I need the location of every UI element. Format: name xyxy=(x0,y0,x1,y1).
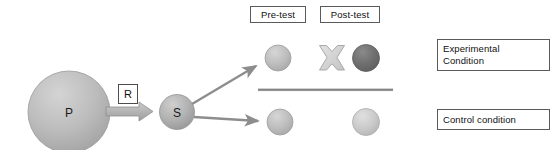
experimental-condition-line2: Condition xyxy=(443,55,484,66)
pretest-header-box: Pre-test xyxy=(250,6,306,23)
experimental-design-diagram: P S R Pre-test Post-test Experimental Co… xyxy=(0,0,555,150)
posttest-circle-control xyxy=(353,109,380,136)
population-label: P xyxy=(65,106,73,120)
pretest-circle-experimental xyxy=(265,45,291,71)
sample-to-experimental-arrow xyxy=(192,66,256,104)
experimental-condition-text: Experimental Condition xyxy=(443,43,500,67)
randomization-label-box: R xyxy=(118,84,138,104)
experimental-condition-line1: Experimental xyxy=(443,43,500,54)
control-condition-label-box: Control condition xyxy=(437,109,550,130)
treatment-x-symbol xyxy=(320,46,345,71)
sample-to-control-arrow xyxy=(194,117,258,121)
sample-label: S xyxy=(173,106,181,120)
experimental-condition-label-box: Experimental Condition xyxy=(437,39,550,71)
pretest-circle-control xyxy=(267,109,293,135)
population-to-sample-arrow xyxy=(106,102,153,121)
posttest-header-box: Post-test xyxy=(320,6,380,23)
condition-divider-line xyxy=(258,89,393,92)
posttest-circle-experimental xyxy=(353,45,380,72)
